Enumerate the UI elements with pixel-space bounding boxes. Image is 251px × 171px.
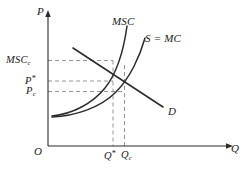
price-tick-msc-c: MSCc xyxy=(6,55,31,66)
demand-curve xyxy=(73,48,163,107)
quantity-tick-q-c-base: Q xyxy=(121,149,129,160)
price-tick-p-c-sub: c xyxy=(33,90,36,97)
y-axis-arrow xyxy=(45,10,50,17)
externality-diagram: P Q O MSC S = MC D MSCc P* Pc Q* Qc xyxy=(0,0,251,171)
x-axis-label: Q xyxy=(231,143,239,154)
quantity-tick-q-c: Qc xyxy=(121,150,132,161)
supply-curve-label: S = MC xyxy=(145,33,181,44)
price-tick-p-c-base: P xyxy=(26,85,33,96)
msc-curve xyxy=(52,26,127,116)
price-tick-msc-c-base: MSC xyxy=(6,54,28,65)
quantity-tick-q-star-sup: * xyxy=(112,149,116,158)
y-axis-label: P xyxy=(37,6,44,17)
quantity-tick-q-star: Q* xyxy=(104,150,116,161)
origin-label: O xyxy=(34,146,42,157)
quantity-tick-q-star-base: Q xyxy=(104,150,112,161)
quantity-tick-q-c-sub: c xyxy=(129,154,132,161)
reference-lines xyxy=(48,61,125,147)
axes xyxy=(48,14,228,146)
demand-curve-label: D xyxy=(168,106,176,117)
price-tick-msc-c-sub: c xyxy=(28,59,31,66)
price-tick-p-star-sup: * xyxy=(32,74,36,83)
supply-curve-s-mc xyxy=(52,38,145,117)
price-tick-p-c: Pc xyxy=(26,86,36,97)
msc-curve-label: MSC xyxy=(112,16,135,27)
